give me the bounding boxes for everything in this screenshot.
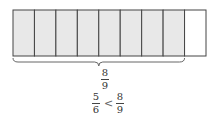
denominator: 6 [93, 105, 99, 115]
comparison-left-fraction: 5 6 [92, 92, 100, 115]
curly-brace [13, 58, 185, 66]
shaded-part [163, 10, 184, 56]
shaded-part [142, 10, 163, 56]
shaded-part [13, 10, 34, 56]
shaded-part [34, 10, 55, 56]
shaded-part [99, 10, 120, 56]
comparison-operator: < [104, 97, 113, 110]
unshaded-part [185, 10, 206, 56]
numerator: 8 [102, 68, 108, 78]
shaded-part [56, 10, 77, 56]
denominator: 9 [117, 105, 123, 115]
comparison-right-fraction: 8 9 [116, 92, 124, 115]
numerator: 8 [117, 92, 123, 102]
shaded-part [120, 10, 141, 56]
denominator: 9 [102, 81, 108, 91]
brace-fraction-label: 8 9 [101, 68, 109, 91]
shaded-part [77, 10, 98, 56]
numerator: 5 [93, 92, 99, 102]
